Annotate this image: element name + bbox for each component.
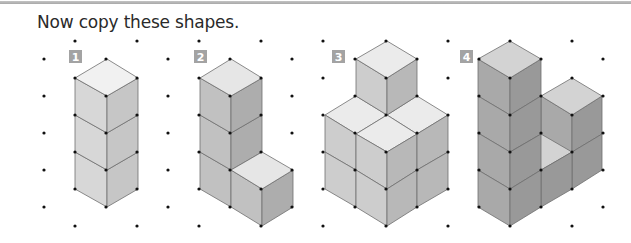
grid-dot (446, 113, 449, 116)
grid-dot (321, 76, 324, 79)
grid-dot (446, 150, 449, 153)
grid-dot (42, 94, 45, 97)
grid-dot (166, 168, 169, 171)
grid-dot (290, 57, 293, 60)
shape-2 (200, 59, 293, 226)
grid-dot (446, 39, 449, 42)
grid-dot (415, 57, 418, 60)
grid-dot (384, 150, 387, 153)
grid-dot (415, 131, 418, 134)
grid-dot (104, 131, 107, 134)
grid-dot (601, 168, 604, 171)
grid-dot (135, 76, 138, 79)
grid-dot (290, 168, 293, 171)
isometric-dot-grid-canvas: 1234 (0, 0, 631, 243)
grid-dot (508, 150, 511, 153)
grid-dot (601, 94, 604, 97)
grid-dot (197, 150, 200, 153)
grid-dot (135, 187, 138, 190)
grid-dot (197, 113, 200, 116)
grid-dot (166, 57, 169, 60)
grid-dot (539, 94, 542, 97)
grid-dot (353, 94, 356, 97)
grid-dot (601, 205, 604, 208)
grid-dot (73, 76, 76, 79)
grid-dot (539, 131, 542, 134)
grid-dot (42, 168, 45, 171)
grid-dot (166, 94, 169, 97)
grid-dot (384, 187, 387, 190)
grid-dot (104, 205, 107, 208)
grid-dot (446, 76, 449, 79)
badge-number: 3 (335, 51, 343, 64)
grid-dot (73, 113, 76, 116)
grid-dot (166, 131, 169, 134)
grid-dot (353, 205, 356, 208)
grid-dot (73, 150, 76, 153)
grid-dot (353, 131, 356, 134)
grid-dot (259, 187, 262, 190)
grid-dot (477, 131, 480, 134)
grid-dot (570, 113, 573, 116)
grid-dot (415, 168, 418, 171)
grid-dot (259, 150, 262, 153)
grid-dot (384, 76, 387, 79)
grid-dot (42, 205, 45, 208)
grid-dot (104, 168, 107, 171)
badge-number: 2 (197, 51, 205, 64)
grid-dot (73, 187, 76, 190)
grid-dot (415, 205, 418, 208)
grid-dot (477, 205, 480, 208)
grid-dot (290, 205, 293, 208)
grid-dot (290, 131, 293, 134)
grid-dot (508, 76, 511, 79)
grid-dot (477, 94, 480, 97)
shape-label-badge: 3 (332, 50, 345, 64)
grid-dot (539, 205, 542, 208)
shape-label-badge: 4 (460, 50, 473, 64)
grid-dot (508, 224, 511, 227)
grid-dot (446, 224, 449, 227)
grid-dot (197, 39, 200, 42)
grid-dot (135, 224, 138, 227)
grid-dot (415, 94, 418, 97)
grid-dot (384, 39, 387, 42)
grid-dot (446, 187, 449, 190)
shapes-layer (75, 41, 602, 226)
grid-dot (135, 113, 138, 116)
grid-dot (259, 224, 262, 227)
badge-number: 4 (463, 51, 471, 64)
grid-dot (570, 76, 573, 79)
grid-dot (508, 39, 511, 42)
grid-dot (321, 224, 324, 227)
grid-dot (42, 131, 45, 134)
grid-dot (321, 39, 324, 42)
grid-dot (197, 187, 200, 190)
grid-dot (353, 57, 356, 60)
grid-dot (570, 187, 573, 190)
grid-dot (259, 113, 262, 116)
grid-dot (539, 57, 542, 60)
grid-dot (321, 113, 324, 116)
grid-dot (353, 168, 356, 171)
grid-dot (228, 205, 231, 208)
grid-dot (135, 39, 138, 42)
grid-dot (570, 150, 573, 153)
grid-dot (570, 224, 573, 227)
grid-dot (228, 168, 231, 171)
grid-dot (384, 113, 387, 116)
grid-dot (104, 94, 107, 97)
shape-label-badge: 2 (194, 50, 207, 64)
grid-dot (508, 113, 511, 116)
grid-dot (42, 57, 45, 60)
grid-dot (259, 39, 262, 42)
grid-dot (73, 224, 76, 227)
grid-dot (228, 94, 231, 97)
grid-dot (197, 224, 200, 227)
grid-dot (539, 168, 542, 171)
grid-dot (321, 187, 324, 190)
grid-dot (290, 94, 293, 97)
badge-number: 1 (72, 51, 80, 64)
grid-dot (135, 150, 138, 153)
grid-dot (166, 205, 169, 208)
